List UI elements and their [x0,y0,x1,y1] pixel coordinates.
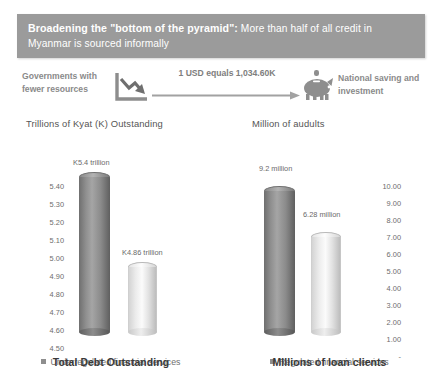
chart-total-debt-outstanding: Trillions of Kyat (K) Outstanding 5.40 5… [0,118,222,374]
chart-left-plot: 5.40 5.30 5.20 5.10 5.00 4.90 4.80 4.70 … [0,142,222,352]
y-tick: 4.90 [30,272,64,281]
chart-left-title: Trillions of Kyat (K) Outstanding [26,118,163,129]
bar-underregulated [79,172,110,336]
y-tick: 4.00 [367,284,401,293]
y-tick: 3.00 [367,301,401,310]
y-tick: 9.00 [367,199,401,208]
y-tick: 2.00 [367,318,401,327]
flow-right-label: National saving and investment [338,72,436,97]
bar-foot [264,328,295,336]
declining-line-chart-icon [112,70,150,104]
y-tick: 5.40 [30,182,64,191]
banner-headline: Broadening the "bottom of the pyramid": [28,22,238,34]
chart-millions-of-loan-clients: Million of audults 10.00 9.00 8.00 7.00 … [222,118,437,374]
y-tick: 5.30 [30,200,64,209]
header-banner: Broadening the "bottom of the pyramid": … [17,14,425,58]
bar-underregulated [264,186,295,336]
piggy-bank-icon [300,68,336,102]
flow-left-label: Governments with fewer resources [22,70,114,95]
y-tick: 4.60 [30,326,64,335]
bar-foot [311,328,341,336]
flow-middle-label: 1 USD equals 1,034.60K [152,68,302,78]
y-tick: 5.00 [30,254,64,263]
flow-diagram: Governments with fewer resources 1 USD e… [0,64,437,116]
banner-text: Broadening the "bottom of the pyramid": … [28,21,416,51]
y-tick: 4.70 [30,308,64,317]
chart-right-plot: 10.00 9.00 8.00 7.00 6.00 5.00 4.00 3.00… [222,142,437,352]
right-arrow-icon [152,86,300,95]
bar-label-underregulated: K5.4 trillion [73,158,110,167]
chart-left-footer-title: Total Debt Outstanding [0,357,222,368]
y-tick: 4.80 [30,290,64,299]
y-tick: 6.00 [367,250,401,259]
y-tick: 5.00 [367,267,401,276]
y-tick: 5.10 [30,236,64,245]
y-tick: 10.00 [367,182,401,191]
bar-body [128,267,157,332]
y-tick: 1.00 [367,335,401,344]
y-tick: 7.00 [367,233,401,242]
chart-left-y-axis: 5.40 5.30 5.20 5.10 5.00 4.90 4.80 4.70 … [30,170,64,336]
slide-canvas: Broadening the "bottom of the pyramid": … [0,0,437,374]
bar-label-regulated: 6.28 million [303,210,340,219]
chart-right-title: Million of audults [252,118,325,129]
bar-label-regulated: K4.86 trillion [122,248,163,257]
bar-regulated [311,232,341,336]
bar-body [311,237,341,332]
chart-right-footer-title: MIllions of loan clients [222,357,437,368]
bar-body [79,177,110,332]
bar-label-underregulated: 9.2 million [259,164,292,173]
y-tick: 5.20 [30,218,64,227]
bar-foot [79,328,110,336]
bar-regulated [128,262,157,336]
y-tick: 8.00 [367,216,401,225]
chart-right-y-axis: 10.00 9.00 8.00 7.00 6.00 5.00 4.00 3.00… [367,170,401,336]
bar-foot [128,328,157,336]
y-tick: 4.50 [30,344,64,353]
bar-body [264,191,295,332]
